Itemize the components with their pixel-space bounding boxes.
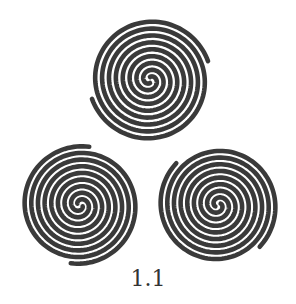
triple-spiral-figure: [0, 0, 296, 304]
figure-caption: 1.1: [0, 266, 296, 291]
